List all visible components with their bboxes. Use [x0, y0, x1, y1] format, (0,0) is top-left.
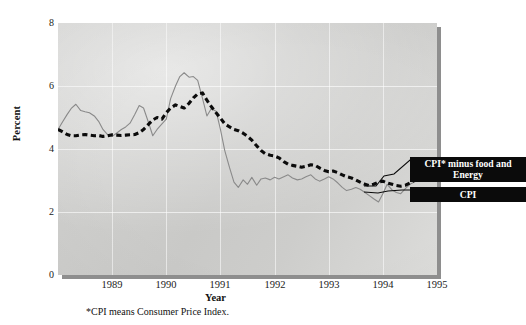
ytick-2: 2: [32, 206, 54, 217]
xtick-1995: 1995: [407, 279, 467, 290]
xtick-1991: 1991: [190, 279, 250, 290]
ytick-0: 0: [32, 269, 54, 280]
xtick-1993: 1993: [299, 279, 359, 290]
legend-item-core[interactable]: CPI* minus food and Energy: [410, 157, 526, 182]
ytick-4: 4: [32, 143, 54, 154]
xtick-1989: 1989: [82, 279, 142, 290]
x-axis-label: Year: [205, 292, 226, 303]
legend-item-cpi[interactable]: CPI: [410, 187, 526, 202]
plot-area: [58, 23, 437, 275]
ytick-8: 8: [32, 17, 54, 28]
plot-vignette: [58, 23, 437, 275]
ytick-6: 6: [32, 80, 54, 91]
chart-figure: 8 6 4 2 0 Percent 1989 1990 1991 1992 19…: [0, 0, 526, 325]
xtick-1990: 1990: [136, 279, 196, 290]
xtick-1992: 1992: [245, 279, 305, 290]
y-axis-label: Percent: [11, 94, 22, 154]
chart-footnote: *CPI means Consumer Price Index.: [86, 306, 229, 317]
xtick-1994: 1994: [353, 279, 413, 290]
